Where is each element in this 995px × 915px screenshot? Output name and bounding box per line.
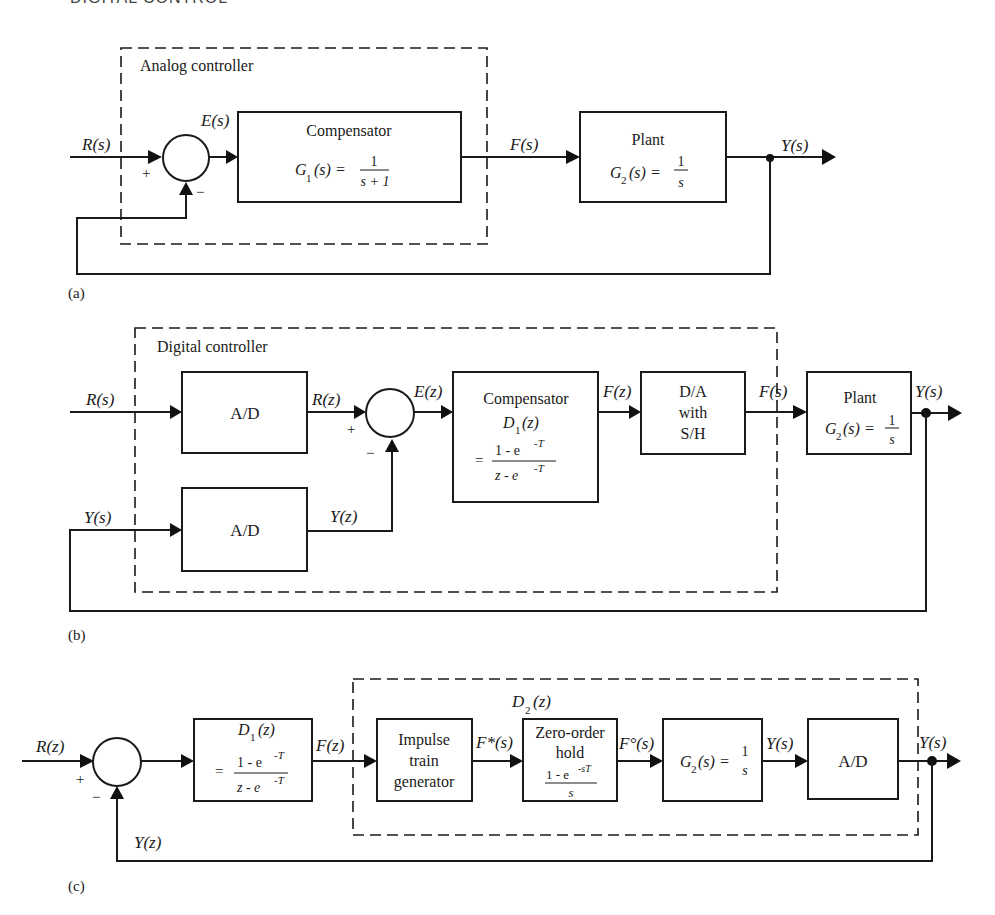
g2-argument: (s) = — [843, 420, 875, 438]
compensator-title: Compensator — [483, 390, 569, 408]
signal-label-fs: F(s) — [758, 382, 788, 401]
digital-controller-group — [135, 328, 777, 592]
zoh-label-1: Zero-order — [535, 724, 605, 741]
minus-sign: − — [196, 184, 204, 200]
summing-junction — [366, 389, 414, 437]
g2-subscript: 2 — [691, 763, 697, 775]
zoh-numerator: 1 - e — [546, 767, 569, 782]
signal-label-ys: Y(s) — [766, 734, 794, 753]
signal-label-f: F(s) — [509, 135, 539, 154]
d1-subscript: 1 — [515, 424, 521, 436]
signal-label-yz: Y(z) — [330, 507, 358, 526]
arrow-icon — [364, 754, 377, 768]
plus-sign: + — [347, 421, 355, 437]
arrow-icon — [179, 182, 193, 195]
signal-label-rz: R(z) — [311, 390, 341, 409]
signal-label-fz: F(z) — [315, 736, 345, 755]
arrow-icon — [181, 754, 194, 768]
g1-argument: (s) = — [314, 161, 346, 179]
plus-sign: + — [76, 771, 84, 787]
panel-b: Digital controller R(s) A/D R(z) + − E(z… — [68, 328, 962, 644]
impulse-label-3: generator — [394, 773, 455, 791]
arrow-icon — [354, 405, 366, 419]
signal-label-ys-feedback: Y(s) — [84, 508, 112, 527]
arrow-icon — [170, 523, 182, 537]
arrow-icon — [566, 150, 580, 164]
plant-title: Plant — [844, 389, 877, 406]
signal-label-y: Y(s) — [781, 136, 809, 155]
arrow-icon — [650, 754, 663, 768]
d1-numerator: 1 - e — [237, 755, 262, 770]
arrow-icon — [793, 405, 807, 419]
d2-symbol: D — [511, 692, 525, 711]
g2-subscript: 2 — [836, 430, 842, 442]
analog-controller-label: Analog controller — [140, 57, 254, 75]
caption-a: (a) — [68, 285, 85, 302]
d1-symbol: D — [237, 721, 250, 738]
signal-label-fcirc: F°(s) — [618, 734, 654, 753]
d2-argument: (z) — [533, 692, 551, 711]
signal-label-fstar: F*(s) — [475, 733, 513, 752]
g2-subscript: 2 — [621, 174, 627, 186]
minus-sign: − — [92, 789, 100, 805]
d1-argument: (z) — [258, 721, 275, 739]
ad-label: A/D — [838, 752, 867, 771]
arrow-icon — [795, 754, 808, 768]
signal-label-e: E(s) — [200, 111, 230, 130]
da-label-2: with — [679, 404, 707, 421]
d1-numerator-exp: -T — [534, 437, 545, 449]
da-label-1: D/A — [679, 383, 707, 400]
arrow-icon — [385, 439, 399, 452]
g2-denominator: s — [742, 763, 748, 778]
d1-denominator: z - e — [236, 780, 260, 795]
d1-numerator: 1 - e — [495, 443, 520, 458]
signal-label-rs: R(s) — [85, 390, 115, 409]
minus-sign: − — [366, 445, 374, 461]
digital-controller-label: Digital controller — [157, 338, 268, 356]
g2-numerator: 1 — [742, 744, 749, 759]
d1-numerator-exp: -T — [274, 749, 285, 761]
d1-denominator-exp: -T — [534, 462, 545, 474]
panel-a: Analog controller R(s) + − E(s) Compensa… — [68, 48, 836, 302]
arrow-icon — [629, 405, 641, 419]
summing-junction — [93, 738, 141, 786]
plus-sign: + — [142, 165, 150, 181]
g1-denominator: s + 1 — [361, 174, 390, 189]
g2-denominator: s — [678, 175, 684, 190]
d1-symbol: D — [502, 414, 515, 431]
g2-argument: (s) = — [629, 164, 661, 182]
signal-label-ys: Y(s) — [915, 382, 943, 401]
arrow-icon — [510, 754, 523, 768]
arrow-icon — [441, 405, 453, 419]
caption-c: (c) — [68, 878, 85, 895]
d1-argument: (z) — [522, 414, 539, 432]
g2-numerator: 1 — [678, 154, 685, 169]
impulse-label-2: train — [409, 752, 438, 769]
signal-label-r: R(s) — [81, 135, 111, 154]
plant-block — [580, 112, 726, 202]
arrow-icon — [948, 405, 962, 421]
signal-label-yz-feedback: Y(z) — [134, 833, 162, 852]
signal-label-fz: F(z) — [602, 382, 632, 401]
arrow-icon — [148, 150, 162, 164]
arrow-icon — [80, 754, 94, 768]
plant-title: Plant — [632, 131, 665, 148]
da-label-3: S/H — [681, 425, 706, 442]
equals-sign: = — [215, 763, 223, 779]
g2-numerator: 1 — [889, 413, 896, 428]
ad-top-label: A/D — [230, 404, 259, 423]
zoh-numerator-exp: -sT — [578, 763, 592, 774]
d2-subscript: 2 — [525, 704, 531, 716]
signal-label-rz: R(z) — [35, 737, 65, 756]
equals-sign: = — [475, 452, 483, 468]
g2-denominator: s — [889, 432, 895, 447]
arrow-icon — [822, 149, 836, 165]
d1-denominator: z - e — [494, 468, 518, 483]
running-header: DIGITAL CONTROL — [70, 0, 228, 6]
g1-subscript: 1 — [306, 172, 312, 184]
arrow-icon — [110, 786, 124, 799]
ad-bottom-label: A/D — [230, 521, 259, 540]
g1-numerator: 1 — [371, 154, 378, 169]
caption-b: (b) — [68, 627, 86, 644]
arrow-icon — [947, 753, 961, 769]
